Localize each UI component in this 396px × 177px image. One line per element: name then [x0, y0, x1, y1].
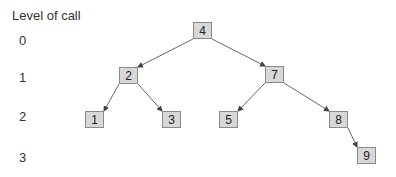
tree-node-9: 9: [357, 147, 376, 164]
edge-7-8: [284, 83, 329, 111]
edge-4-2: [138, 39, 193, 67]
edge-2-3: [138, 84, 162, 111]
tree-node-2: 2: [119, 67, 138, 84]
tree-node-3: 3: [162, 111, 181, 128]
edge-2-1: [104, 84, 119, 111]
edge-8-9: [348, 128, 357, 147]
tree-node-7: 7: [265, 66, 284, 83]
edge-4-7: [212, 39, 265, 66]
tree-node-8: 8: [329, 111, 348, 128]
tree-node-4: 4: [193, 22, 212, 39]
edge-7-5: [238, 83, 265, 111]
tree-node-5: 5: [219, 111, 238, 128]
tree-node-1: 1: [85, 111, 104, 128]
